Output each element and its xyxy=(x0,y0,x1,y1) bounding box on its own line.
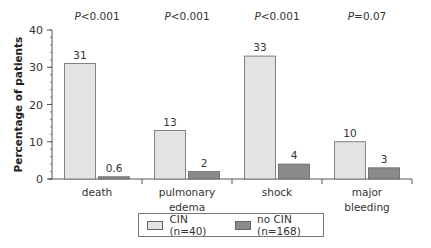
bar-no-cin xyxy=(369,168,400,179)
legend-swatch-cin xyxy=(147,221,163,230)
bar-value-label: 0.6 xyxy=(106,162,123,174)
bar-cin xyxy=(65,64,96,179)
bar-cin xyxy=(335,142,366,179)
legend-item-no-cin: no CIN (n=168) xyxy=(235,213,323,237)
p-value-label: P=0.07 xyxy=(348,10,387,22)
legend-label-cin: CIN (n=40) xyxy=(169,213,216,237)
p-value-label: P<0.001 xyxy=(74,10,119,22)
y-tick-label: 10 xyxy=(29,136,43,149)
y-tick-label: 0 xyxy=(36,173,43,186)
bar-value-label: 33 xyxy=(253,41,266,53)
category-label: pulmonary xyxy=(159,186,216,198)
legend-item-cin: CIN (n=40) xyxy=(147,213,217,237)
legend-swatch-no-cin xyxy=(235,221,252,230)
legend-label-no-cin: no CIN (n=168) xyxy=(257,213,323,237)
bar-no-cin xyxy=(279,164,310,179)
category-label: bleeding xyxy=(344,201,389,213)
bar-value-label: 3 xyxy=(381,153,388,165)
bar-value-label: 10 xyxy=(343,127,356,139)
bar-value-label: 31 xyxy=(73,49,86,61)
bar-cin xyxy=(155,131,186,179)
bar-value-label: 2 xyxy=(201,157,208,169)
bar-cin xyxy=(245,56,276,179)
category-label: major xyxy=(352,186,383,198)
p-value-label: P<0.001 xyxy=(164,10,209,22)
category-label: shock xyxy=(262,186,293,198)
y-tick-label: 20 xyxy=(29,99,43,112)
bar-value-label: 4 xyxy=(291,149,298,161)
y-tick-label: 30 xyxy=(29,61,43,74)
y-tick-label: 40 xyxy=(29,24,43,37)
category-label: death xyxy=(82,186,112,198)
bar-value-label: 13 xyxy=(163,116,176,128)
bar-no-cin xyxy=(189,172,220,179)
bar-no-cin xyxy=(99,177,130,179)
p-value-label: P<0.001 xyxy=(254,10,299,22)
legend: CIN (n=40) no CIN (n=168) xyxy=(138,213,324,237)
bar-chart: 010203040Percentage of patients310.6deat… xyxy=(0,0,431,248)
y-axis-label: Percentage of patients xyxy=(12,37,24,173)
category-label: edema xyxy=(169,201,205,213)
